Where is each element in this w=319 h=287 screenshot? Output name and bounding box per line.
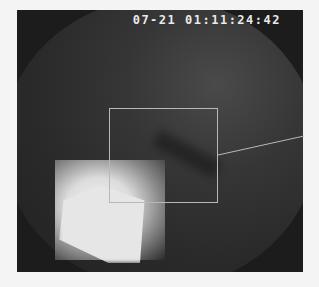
timestamp-overlay: 07-21 01:11:24:42 <box>133 13 281 27</box>
region-of-interest-box <box>109 108 218 203</box>
